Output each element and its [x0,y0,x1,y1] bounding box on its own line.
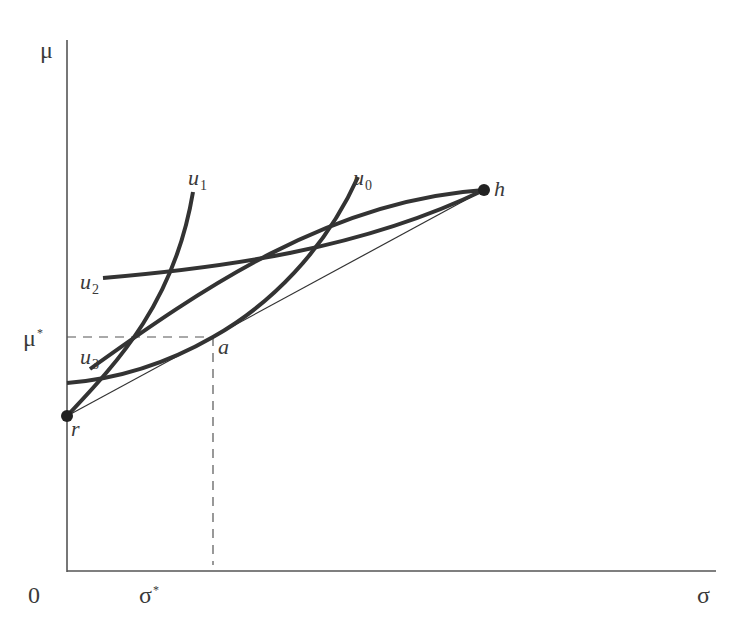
mu-star-sup: * [37,326,43,340]
mu-star-base: μ [23,325,36,351]
u3-sub: 3 [92,357,99,372]
point-a-label: a [218,336,229,358]
curve-u1-label: u1 [188,167,207,189]
sigma-star-label: σ* [139,583,159,607]
point-h-dot [478,184,490,196]
sigma-star-sup: * [153,583,159,597]
point-h-label: h [494,178,505,200]
u2-sub: 2 [92,282,99,297]
u0-base: u [353,165,364,190]
u2-base: u [80,269,91,294]
x-axis-label: σ [697,583,710,607]
diagram-canvas [0,0,752,641]
u1-base: u [188,165,199,190]
curve-u2-label: u2 [80,271,99,293]
origin-label: 0 [28,583,40,607]
mu-star-label: μ* [23,326,43,350]
point-r-label: r [71,418,80,440]
curve-u0-label: u0 [353,167,372,189]
curve-u2 [103,190,484,278]
u3-base: u [80,344,91,369]
line-r-h [67,190,484,416]
curve-u3-label: u3 [80,346,99,368]
sigma-star-base: σ [139,582,152,608]
u0-sub: 0 [365,178,372,193]
y-axis-label: μ [40,38,53,62]
u1-sub: 1 [200,178,207,193]
